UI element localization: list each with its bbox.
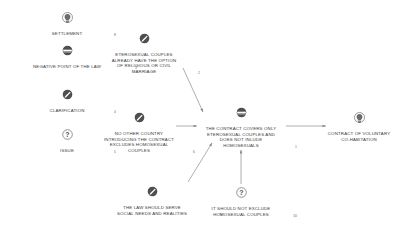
edge-eterosexual-to-contract <box>183 68 203 112</box>
node-index: 10 <box>293 215 297 218</box>
svg-text:?: ? <box>239 189 243 196</box>
pencil-icon <box>146 186 159 200</box>
node-label: CONTRACT OF VOLUNTARY CO-HABITATION <box>309 131 409 142</box>
node-index: 2 <box>198 72 200 75</box>
negative-band-icon <box>61 45 74 59</box>
svg-text:?: ? <box>65 131 69 138</box>
pencil-icon <box>138 33 151 47</box>
node-label: NO OTHER COUNTRY INTRODUCING THE CONTRAC… <box>89 131 189 153</box>
node-no-other-country[interactable]: 6 NO OTHER COUNTRY INTRODUCING THE CONTR… <box>89 112 189 153</box>
pencil-icon <box>61 89 74 103</box>
node-label: THE CONTRACT COVERS ONLY ETEROSEXUAL COU… <box>191 126 291 148</box>
node-index: 1 <box>295 146 297 149</box>
question-icon: ? <box>61 129 74 143</box>
lightbulb-icon <box>61 12 74 26</box>
node-label: IT SHOULD NOT EXCLUDE HOMOSEXUAL COUPLES <box>191 206 291 217</box>
node-it-should-not-exclude[interactable]: ? 10 IT SHOULD NOT EXCLUDE HOMOSEXUAL CO… <box>191 187 291 217</box>
pencil-icon <box>133 112 146 126</box>
negative-band-icon <box>235 107 248 121</box>
node-label: ETEROSEXUAL COUPLES ALREADY HAVE THE OPT… <box>94 52 194 74</box>
diagram-canvas: 8 SETTLEMENT 3 NEGATIVE POINT OF THE LAW… <box>0 0 413 231</box>
node-eterosexual-couples-option[interactable]: 2 ETEROSEXUAL COUPLES ALREADY HAVE THE O… <box>94 33 194 74</box>
lightbulb-icon <box>353 112 366 126</box>
node-clarification[interactable]: 4 CLARIFICATION <box>24 89 110 114</box>
node-contract-of-voluntary-cohabitation[interactable]: 7 CONTRACT OF VOLUNTARY CO-HABITATION <box>309 112 409 142</box>
node-index: 6 <box>193 151 195 154</box>
edge-lawshouldserve-to-contract <box>188 143 212 182</box>
node-the-contract-covers-only[interactable]: 1 THE CONTRACT COVERS ONLY ETEROSEXUAL C… <box>191 107 291 148</box>
question-icon: ? <box>235 187 248 201</box>
